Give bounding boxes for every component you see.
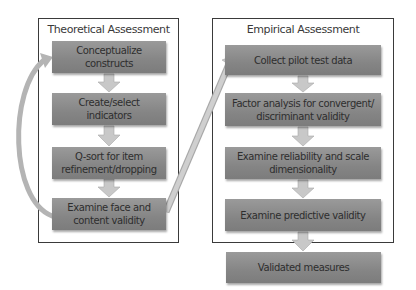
step-factor-analysis: Factor analysis for convergent/ discrimi… <box>225 93 381 126</box>
step-examine-reliability: Examine reliability and scale dimensiona… <box>225 147 381 179</box>
step-collect-pilot-test-data: Collect pilot test data <box>225 45 381 75</box>
step-label: Q-sort for item refinement/dropping <box>55 150 163 176</box>
step-label: Examine predictive validity <box>240 209 365 222</box>
step-label: Factor analysis for convergent/ discrimi… <box>228 97 378 123</box>
step-label: Create/select indicators <box>55 96 163 122</box>
step-conceptualize-constructs: Conceptualize constructs <box>52 41 166 73</box>
step-label: Examine face and content validity <box>55 201 163 227</box>
step-label: Examine reliability and scale dimensiona… <box>228 150 378 176</box>
step-examine-predictive-validity: Examine predictive validity <box>225 199 381 231</box>
theoretical-assessment-title: Theoretical Assessment <box>39 23 178 36</box>
step-examine-face-content-validity: Examine face and content validity <box>52 198 166 230</box>
step-create-select-indicators: Create/select indicators <box>52 93 166 125</box>
step-label: Conceptualize constructs <box>55 44 163 70</box>
step-validated-measures: Validated measures <box>226 252 381 283</box>
step-q-sort: Q-sort for item refinement/dropping <box>52 147 166 179</box>
empirical-assessment-title: Empirical Assessment <box>213 23 393 36</box>
step-label: Collect pilot test data <box>254 54 352 67</box>
step-label: Validated measures <box>258 261 349 274</box>
